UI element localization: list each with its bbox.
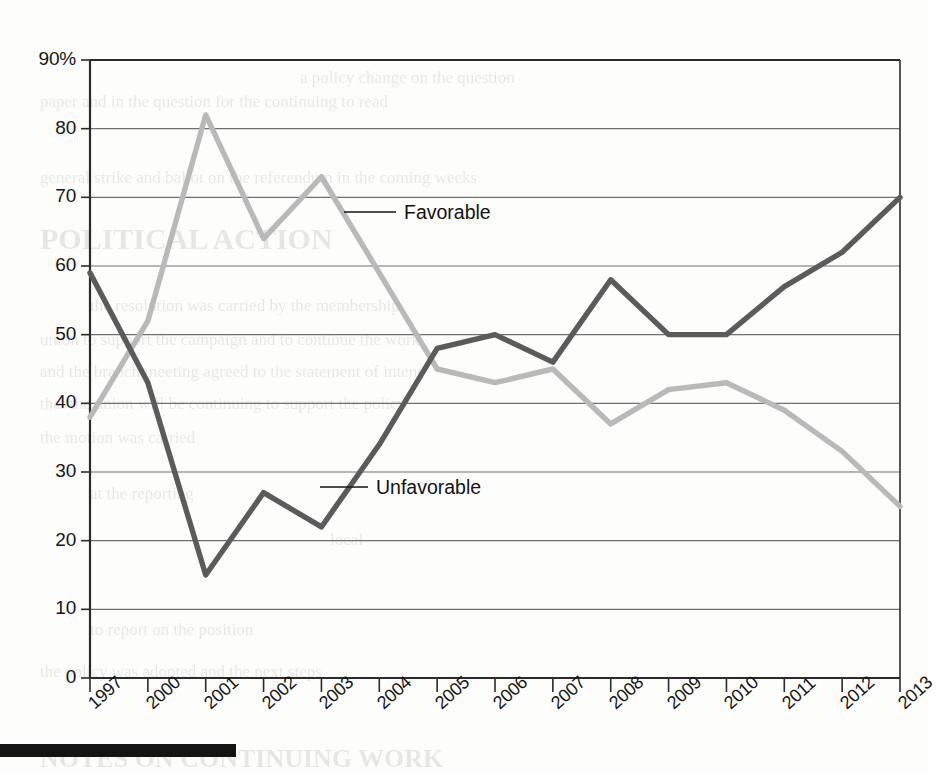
y-axis-tick-label: 60 — [55, 254, 76, 276]
bottom-black-rule — [0, 744, 236, 757]
y-axis-tick-label: 50 — [55, 323, 76, 345]
y-axis-tick-label: 90% — [39, 48, 76, 70]
y-axis-tick-label: 0 — [66, 666, 76, 688]
y-axis-tick-label: 40 — [55, 391, 76, 413]
y-axis-tick-label: 10 — [55, 597, 76, 619]
series-line-favorable[interactable] — [90, 115, 900, 506]
gridline-group — [90, 60, 900, 678]
callout-leader-group — [320, 212, 396, 487]
y-axis-tick-label: 20 — [55, 529, 76, 551]
y-axis-tick-label: 80 — [55, 117, 76, 139]
series-group — [90, 115, 900, 575]
series-line-unfavorable[interactable] — [90, 197, 900, 575]
favorable-callout-label: Favorable — [404, 201, 491, 224]
axis-group — [90, 60, 900, 678]
y-tick-group — [81, 60, 90, 678]
y-axis-tick-label: 70 — [55, 185, 76, 207]
y-axis-tick-label: 30 — [55, 460, 76, 482]
unfavorable-callout-label: Unfavorable — [376, 476, 481, 499]
